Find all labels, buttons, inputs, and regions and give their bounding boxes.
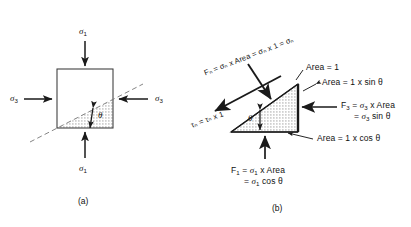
- f3-subscript: 3: [346, 104, 350, 111]
- panel-b-f3-equation-line1: F3 = σ3 x Area: [341, 100, 395, 111]
- equals-glyph: =: [354, 111, 359, 121]
- panel-b-area-top-label: Area = 1: [306, 62, 339, 72]
- stress-resolution-figure: σ1 σ1 σ3 σ3 θ (a) Fₙ = σₙ x Area = σₙ x …: [0, 0, 411, 227]
- panel-a-caption: (a): [78, 196, 88, 206]
- area-term: x Area: [370, 100, 395, 110]
- panel-b-f1-equation-line1: F1 = σ1 x Area: [231, 165, 285, 176]
- sigma-subscript: 1: [254, 169, 258, 176]
- panel-b-graphics: [215, 64, 337, 159]
- panel-a-sigma3-right-label: σ3: [155, 93, 163, 104]
- panel-b-f1-equation-line2: = σ1 cos θ: [231, 176, 285, 187]
- panel-b-f1-equation: F1 = σ1 x Area = σ1 cos θ: [231, 165, 285, 187]
- cos-theta-term: cos θ: [262, 176, 283, 186]
- equals-glyph: =: [244, 176, 249, 186]
- sigma-subscript: 1: [84, 167, 88, 174]
- sin-theta-term: sin θ: [372, 111, 390, 121]
- f1-subscript: 1: [236, 169, 240, 176]
- panel-b-caption: (b): [272, 203, 282, 213]
- panel-a-sigma1-top-label: σ1: [79, 26, 87, 37]
- area-term: x Area: [260, 165, 285, 175]
- panel-b-f3-equation: F3 = σ3 x Area = σ3 sin θ: [341, 100, 395, 122]
- panel-b-f3-equation-line2: = σ3 sin θ: [341, 111, 395, 122]
- panel-a-sigma3-left-label: σ3: [10, 93, 18, 104]
- panel-b-theta-label: θ: [248, 113, 252, 124]
- panel-b-area-cos-leader: [288, 133, 313, 139]
- panel-b-area-base-label: Area = 1 x cos θ: [317, 133, 380, 143]
- theta-glyph: θ: [248, 113, 252, 123]
- panel-b-normal-force-arrow: [248, 64, 271, 99]
- panel-b-area-sin-leader: [303, 84, 316, 91]
- equals-glyph: =: [242, 165, 247, 175]
- panel-a-theta-label: θ: [98, 110, 102, 121]
- sigma-subscript: 1: [256, 180, 260, 187]
- panel-b-area-hypotenuse-label: Area = 1 x sin θ: [322, 77, 383, 87]
- sigma-subscript: 1: [84, 30, 88, 37]
- panel-a-sigma1-bottom-label: σ1: [79, 163, 87, 174]
- sigma-subscript: 3: [15, 97, 19, 104]
- sigma-subscript: 3: [366, 115, 370, 122]
- theta-glyph: θ: [98, 110, 102, 120]
- equals-glyph: =: [352, 100, 357, 110]
- panel-a-graphics: [24, 41, 148, 158]
- sigma-subscript: 3: [160, 97, 164, 104]
- sigma-subscript: 3: [364, 104, 368, 111]
- panel-b-area-top-leader: [296, 70, 303, 80]
